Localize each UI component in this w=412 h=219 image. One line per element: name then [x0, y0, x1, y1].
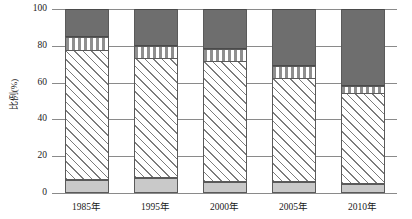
gridline-0: [52, 193, 397, 194]
y-tick-label-40: 40: [38, 115, 48, 125]
y-axis-title: 比例(%): [7, 60, 20, 130]
bar-segment-hatched[interactable]: [272, 79, 316, 182]
x-tick-label-2010年: 2010年: [328, 199, 398, 213]
y-tick-label-60: 60: [38, 78, 48, 88]
bar-segment-hatched[interactable]: [203, 62, 247, 182]
bar-segment-gray-bottom[interactable]: [341, 184, 385, 193]
bar-segment-dark-top[interactable]: [341, 9, 385, 86]
y-tick-label-20: 20: [38, 151, 48, 161]
bar-segment-dotted[interactable]: [134, 46, 178, 59]
bar-segment-dotted[interactable]: [203, 49, 247, 62]
bar-2000年[interactable]: [203, 9, 247, 193]
bar-segment-dotted[interactable]: [65, 37, 109, 52]
bar-segment-hatched[interactable]: [65, 51, 109, 180]
bar-2005年[interactable]: [272, 9, 316, 193]
x-tick-label-1985年: 1985年: [52, 199, 122, 213]
bar-2010年[interactable]: [341, 9, 385, 193]
x-tick-label-2000年: 2000年: [190, 199, 260, 213]
bar-segment-gray-bottom[interactable]: [65, 180, 109, 193]
plot-area: 020406080100: [52, 9, 397, 193]
stacked-bar-chart: 比例(%) 020406080100 1985年1995年2000年2005年2…: [0, 0, 412, 219]
bar-segment-hatched[interactable]: [341, 94, 385, 184]
bar-segment-gray-bottom[interactable]: [272, 182, 316, 193]
bar-segment-hatched[interactable]: [134, 59, 178, 179]
bar-segment-gray-bottom[interactable]: [134, 178, 178, 193]
y-tick-label-100: 100: [33, 4, 47, 14]
bar-segment-gray-bottom[interactable]: [203, 182, 247, 193]
bar-segment-dark-top[interactable]: [272, 9, 316, 66]
bar-1995年[interactable]: [134, 9, 178, 193]
bar-segment-dotted[interactable]: [341, 86, 385, 93]
y-tick-label-0: 0: [42, 188, 47, 198]
bar-segment-dark-top[interactable]: [203, 9, 247, 49]
bar-1985年[interactable]: [65, 9, 109, 193]
bar-segment-dotted[interactable]: [272, 66, 316, 79]
bar-segment-dark-top[interactable]: [134, 9, 178, 46]
x-tick-label-2005年: 2005年: [259, 199, 329, 213]
bar-segment-dark-top[interactable]: [65, 9, 109, 37]
y-tick-label-80: 80: [38, 41, 48, 51]
x-tick-label-1995年: 1995年: [121, 199, 191, 213]
